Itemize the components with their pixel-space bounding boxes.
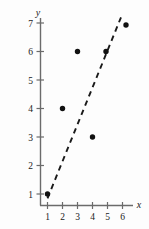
data-point [75, 49, 80, 54]
data-point [123, 22, 128, 27]
y-tick-label-2: 2 [28, 161, 33, 171]
y-tick-label-3: 3 [28, 133, 33, 143]
data-point [103, 49, 108, 54]
y-axis-label: y [35, 7, 41, 18]
y-tick-label-7: 7 [28, 19, 33, 29]
x-tick-label-4: 4 [90, 212, 95, 222]
data-point [60, 106, 65, 111]
x-tick-label-2: 2 [60, 212, 65, 222]
y-tick-label-1: 1 [28, 190, 33, 200]
x-tick-label-6: 6 [120, 212, 125, 222]
trend-line-dashed [48, 17, 122, 198]
y-tick-label-6: 6 [28, 47, 33, 57]
x-tick-label-3: 3 [75, 212, 80, 222]
y-tick-label-5: 5 [28, 76, 33, 86]
data-point [90, 134, 95, 139]
x-tick-label-1: 1 [45, 212, 50, 222]
x-axis-label: x [136, 199, 142, 210]
y-tick-labels: 7 6 5 4 3 2 1 [28, 19, 33, 200]
scatter-plot-figure: 7 6 5 4 3 2 1 1 2 3 4 5 6 y x [0, 0, 149, 229]
data-point [45, 191, 50, 196]
x-tick-label-5: 5 [105, 212, 110, 222]
data-points [45, 22, 129, 196]
y-tick-label-4: 4 [28, 104, 33, 114]
plot-canvas: 7 6 5 4 3 2 1 1 2 3 4 5 6 y x [0, 0, 149, 229]
x-tick-labels: 1 2 3 4 5 6 [45, 212, 125, 222]
